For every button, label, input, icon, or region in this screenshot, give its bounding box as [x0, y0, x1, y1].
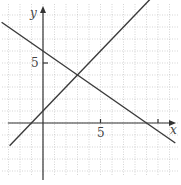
grid-lines	[2, 4, 178, 175]
line-decreasing	[2, 22, 176, 143]
axes	[8, 6, 176, 180]
data-lines	[2, 0, 176, 146]
y-axis-arrow-icon	[40, 6, 46, 13]
x-axis-label: x	[170, 123, 177, 137]
y-axis-label: y	[29, 6, 37, 20]
y-tick-label-5: 5	[31, 56, 39, 70]
x-tick-label-5: 5	[97, 126, 105, 140]
line-increasing	[10, 0, 161, 146]
coordinate-plane: x y 5 5	[0, 0, 181, 185]
